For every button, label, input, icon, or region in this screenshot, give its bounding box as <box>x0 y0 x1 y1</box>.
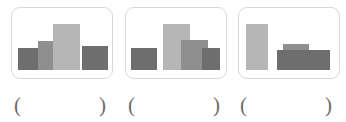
option-card-b[interactable] <box>125 7 227 79</box>
bar-chart-b <box>126 8 226 78</box>
paren-close-icon: ) <box>99 95 106 116</box>
paren-open-icon: ( <box>128 95 135 116</box>
paren-open-icon: ( <box>240 95 247 116</box>
option-card-a[interactable] <box>11 7 113 79</box>
bar-3 <box>277 50 330 70</box>
paren-close-icon: ) <box>213 95 220 116</box>
answer-blank-c-field[interactable] <box>247 105 325 106</box>
answer-blank-row: ( ) ( ) ( ) <box>0 88 346 122</box>
bar-3 <box>53 24 80 70</box>
answer-blank-b[interactable]: ( ) <box>128 88 220 122</box>
bar-4 <box>202 48 220 70</box>
bar-4 <box>82 46 108 70</box>
answer-blank-a[interactable]: ( ) <box>14 88 106 122</box>
option-card-row <box>0 0 346 88</box>
bar-1 <box>246 24 268 70</box>
paren-open-icon: ( <box>14 95 21 116</box>
answer-blank-b-field[interactable] <box>135 105 213 106</box>
question-page: ( ) ( ) ( ) <box>0 0 346 122</box>
option-card-c[interactable] <box>238 7 340 79</box>
bar-chart-a <box>12 8 112 78</box>
answer-blank-c[interactable]: ( ) <box>240 88 332 122</box>
bar-chart-c <box>239 8 339 78</box>
paren-close-icon: ) <box>325 95 332 116</box>
bar-1 <box>131 48 157 70</box>
answer-blank-a-field[interactable] <box>21 105 99 106</box>
